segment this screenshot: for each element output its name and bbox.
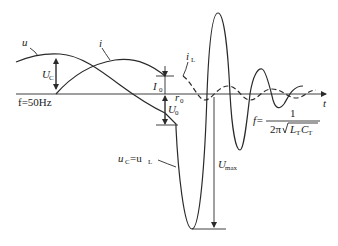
inductor-current-curve: i L xyxy=(183,50,316,100)
label-i: i xyxy=(99,37,102,49)
power-frequency-label: f=50Hz xyxy=(18,96,52,108)
svg-text:I: I xyxy=(152,80,158,92)
svg-text:T: T xyxy=(308,129,313,137)
svg-text:1: 1 xyxy=(290,107,296,119)
time-axis-label: t xyxy=(323,97,327,109)
svg-text:0: 0 xyxy=(159,86,163,94)
waveform-diagram: t u i U C f=50Hz I 0 r 0 U 0 xyxy=(0,0,338,246)
svg-text:max: max xyxy=(225,164,238,172)
label-il: i xyxy=(186,50,189,62)
svg-text:2π: 2π xyxy=(270,123,282,135)
label-uc-ul: u xyxy=(118,152,124,164)
svg-text:0: 0 xyxy=(175,109,179,117)
label-u: u xyxy=(22,36,28,48)
i0-annotation: I 0 r 0 xyxy=(152,66,184,105)
uc-annotation: U C f=50Hz xyxy=(18,59,56,108)
svg-text:C: C xyxy=(49,74,54,82)
current-curve-i: i xyxy=(56,37,165,94)
svg-text:0: 0 xyxy=(180,97,184,105)
oscillation-frequency-formula: f= 1 2π L T C T xyxy=(253,107,320,137)
svg-text:L: L xyxy=(191,56,195,64)
svg-text:L: L xyxy=(148,158,152,166)
svg-text:f=: f= xyxy=(253,114,263,126)
svg-text:=u: =u xyxy=(130,152,142,164)
